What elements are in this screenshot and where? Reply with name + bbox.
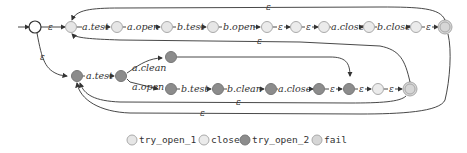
legend-label: close: [211, 134, 240, 145]
svg-text:a.open: a.open: [132, 81, 164, 92]
svg-text:b.close: b.close: [377, 21, 411, 32]
svg-text:ε: ε: [236, 97, 241, 107]
top-row: a.test a.open b.test b.open ε ε a.close …: [66, 20, 453, 34]
legend-label: fail: [324, 134, 347, 145]
legend: try_open_1 close try_open_2 fail: [127, 134, 347, 145]
state-node: [166, 84, 177, 95]
bottom-row: a.test a.clean a.open b.test b.clean a.c…: [72, 52, 418, 97]
svg-text:a.close: a.close: [331, 21, 365, 32]
legend-swatch-close: [199, 135, 209, 145]
state-node: [66, 22, 77, 33]
state-node: [112, 22, 123, 33]
svg-text:ε: ε: [257, 36, 262, 46]
svg-text:b.open: b.open: [223, 21, 256, 32]
legend-swatch-try-open-2: [240, 135, 250, 145]
state-node: [213, 84, 224, 95]
svg-text:ε: ε: [40, 52, 45, 62]
state-node: [314, 84, 325, 95]
edge-label: ε: [48, 22, 53, 32]
state-node: [291, 22, 302, 33]
state-node: [116, 71, 127, 82]
state-node: [373, 84, 384, 95]
state-node: [411, 22, 422, 33]
svg-text:ε: ε: [389, 84, 394, 94]
legend-label: try_open_2: [252, 134, 309, 145]
state-node: [344, 84, 355, 95]
svg-text:ε: ε: [426, 22, 431, 32]
state-node: [262, 22, 273, 33]
svg-text:b.clean: b.clean: [227, 83, 262, 94]
svg-text:ε: ε: [359, 84, 364, 94]
svg-text:ε: ε: [278, 22, 283, 32]
legend-swatch-fail: [312, 135, 322, 145]
state-node: [364, 22, 375, 33]
svg-text:a.open: a.open: [127, 21, 159, 32]
state-node: [72, 71, 83, 82]
svg-text:b.test: b.test: [181, 83, 208, 94]
svg-text:a.close: a.close: [278, 83, 312, 94]
svg-text:a.test: a.test: [86, 70, 113, 81]
state-machine-diagram: ε a.test a.open b.test b.open ε ε a.clos…: [0, 0, 467, 153]
state-node: [166, 52, 177, 63]
state-node: [266, 84, 277, 95]
svg-text:a.clean: a.clean: [132, 62, 166, 73]
legend-swatch-try-open-1: [127, 135, 137, 145]
svg-text:b.test: b.test: [177, 21, 204, 32]
start-state: [29, 21, 41, 33]
svg-text:ε: ε: [266, 2, 271, 12]
state-node: [208, 22, 219, 33]
legend-label: try_open_1: [139, 134, 196, 145]
svg-text:ε: ε: [306, 22, 311, 32]
svg-text:a.test: a.test: [82, 21, 109, 32]
svg-text:ε: ε: [200, 108, 205, 118]
state-node: [162, 22, 173, 33]
svg-text:ε: ε: [330, 84, 335, 94]
state-node: [319, 22, 330, 33]
